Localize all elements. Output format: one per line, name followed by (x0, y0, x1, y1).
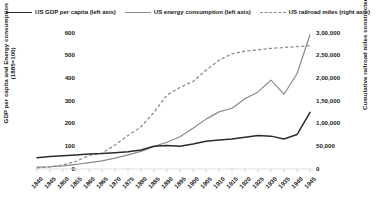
plot-area (0, 0, 376, 205)
series-line-railroad (37, 46, 310, 168)
axis-tickmarks (37, 169, 310, 172)
series-line-energy (37, 35, 310, 167)
series-line-gdp (37, 112, 310, 157)
chart-container: US GDP per capita (left axis) US energy … (0, 0, 376, 205)
